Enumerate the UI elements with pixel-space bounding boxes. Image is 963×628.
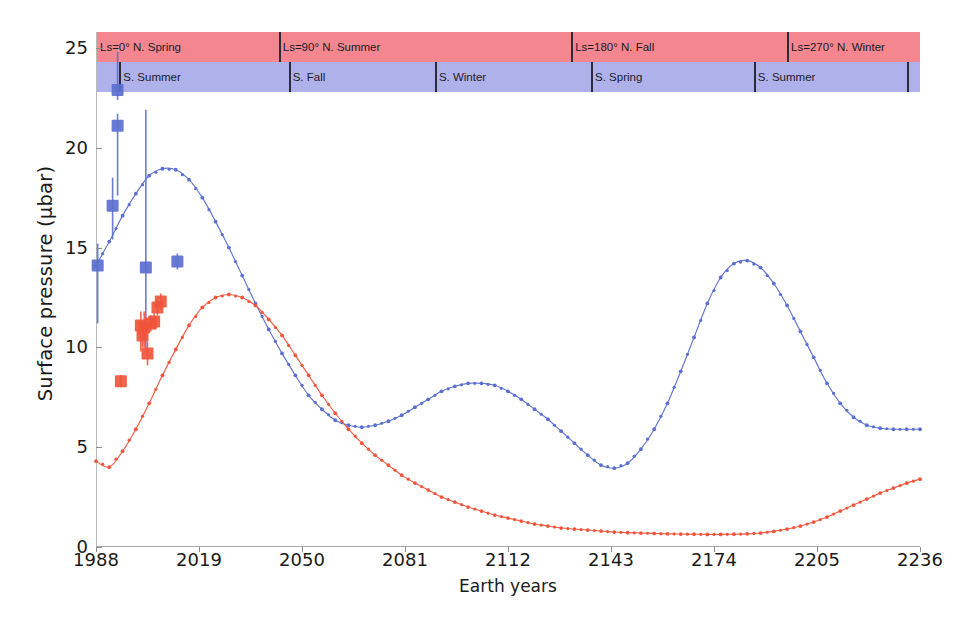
series-marker [207, 208, 210, 211]
series-marker [267, 318, 271, 322]
series-marker [612, 466, 616, 470]
series-marker [885, 427, 888, 430]
series-marker [154, 171, 157, 174]
series-marker [274, 326, 277, 329]
series-marker [739, 532, 742, 535]
series-marker [852, 415, 856, 419]
series-marker [227, 293, 231, 297]
series-marker [639, 447, 643, 451]
series-marker [819, 369, 822, 372]
series-marker [121, 449, 125, 453]
series-marker [293, 373, 297, 377]
series-marker [865, 423, 869, 427]
series-marker [141, 415, 144, 418]
series-marker [340, 420, 343, 423]
series-marker [174, 347, 178, 351]
series-marker [752, 262, 755, 265]
series-marker [280, 351, 284, 355]
series-marker [314, 401, 317, 404]
series-marker [719, 276, 723, 280]
series-marker [673, 532, 676, 535]
series-marker [214, 220, 218, 224]
series-marker [426, 397, 430, 401]
series-marker [367, 448, 370, 451]
series-marker [865, 497, 869, 501]
series-marker [187, 324, 191, 328]
series-marker [705, 302, 709, 306]
data-point-marker [148, 315, 160, 327]
series-marker [128, 439, 131, 442]
series-marker [513, 518, 516, 521]
series-marker [540, 523, 543, 526]
series-marker [486, 383, 489, 386]
series-marker [426, 488, 430, 492]
observations-blue [92, 52, 184, 349]
series-marker [540, 413, 543, 416]
series-marker [546, 417, 550, 421]
series-marker [812, 355, 816, 359]
series-marker [792, 317, 795, 320]
series-marker [373, 453, 377, 457]
series-marker [234, 260, 237, 263]
series-marker [460, 503, 463, 506]
series-marker [792, 526, 795, 529]
series-marker [872, 495, 875, 498]
series-marker [500, 387, 503, 390]
series-marker [719, 533, 723, 537]
series-marker [333, 411, 337, 415]
series-marker [280, 334, 284, 338]
series-marker [819, 518, 822, 521]
series-marker [380, 459, 383, 462]
data-point-marker [171, 256, 183, 268]
series-marker [526, 521, 529, 524]
series-marker [161, 167, 165, 171]
series-marker [221, 294, 224, 297]
series-marker [586, 453, 590, 457]
series-marker [200, 196, 204, 200]
series-marker [918, 477, 922, 481]
series-marker [506, 516, 510, 520]
series-marker [838, 509, 842, 513]
series-marker [247, 300, 250, 303]
data-point-marker [155, 295, 167, 307]
series-marker [367, 425, 370, 428]
series-marker [187, 178, 191, 182]
series-marker [732, 262, 736, 266]
series-marker [825, 381, 829, 385]
observations-red [115, 293, 167, 387]
series-marker [633, 531, 636, 534]
series-marker [447, 498, 450, 501]
series-marker [593, 529, 596, 532]
series-marker [666, 401, 670, 405]
series-marker [686, 533, 689, 536]
series-marker [573, 527, 577, 531]
y-tick-mark [96, 48, 102, 49]
series-marker [619, 531, 622, 534]
series-marker [580, 448, 583, 451]
data-point-marker [140, 262, 152, 274]
series-marker [506, 389, 510, 393]
series-marker [759, 266, 763, 270]
series-marker [473, 382, 476, 385]
series-marker [612, 530, 616, 534]
series-marker [606, 465, 609, 468]
series-marker [386, 419, 390, 423]
series-marker [805, 343, 808, 346]
series-marker [466, 381, 470, 385]
series-red [94, 293, 922, 537]
series-marker [194, 315, 197, 318]
series-marker [745, 532, 749, 536]
series-marker [94, 459, 98, 463]
data-point-marker [92, 260, 104, 272]
series-marker [473, 507, 476, 510]
series-marker [798, 330, 802, 334]
series-marker [912, 480, 915, 483]
series-marker [779, 529, 782, 532]
series-marker [766, 274, 769, 277]
series-marker [812, 520, 816, 524]
series-marker [639, 531, 643, 535]
series-marker [154, 388, 157, 391]
series-marker [420, 402, 423, 405]
series-marker [533, 407, 537, 411]
series-marker [859, 500, 862, 503]
